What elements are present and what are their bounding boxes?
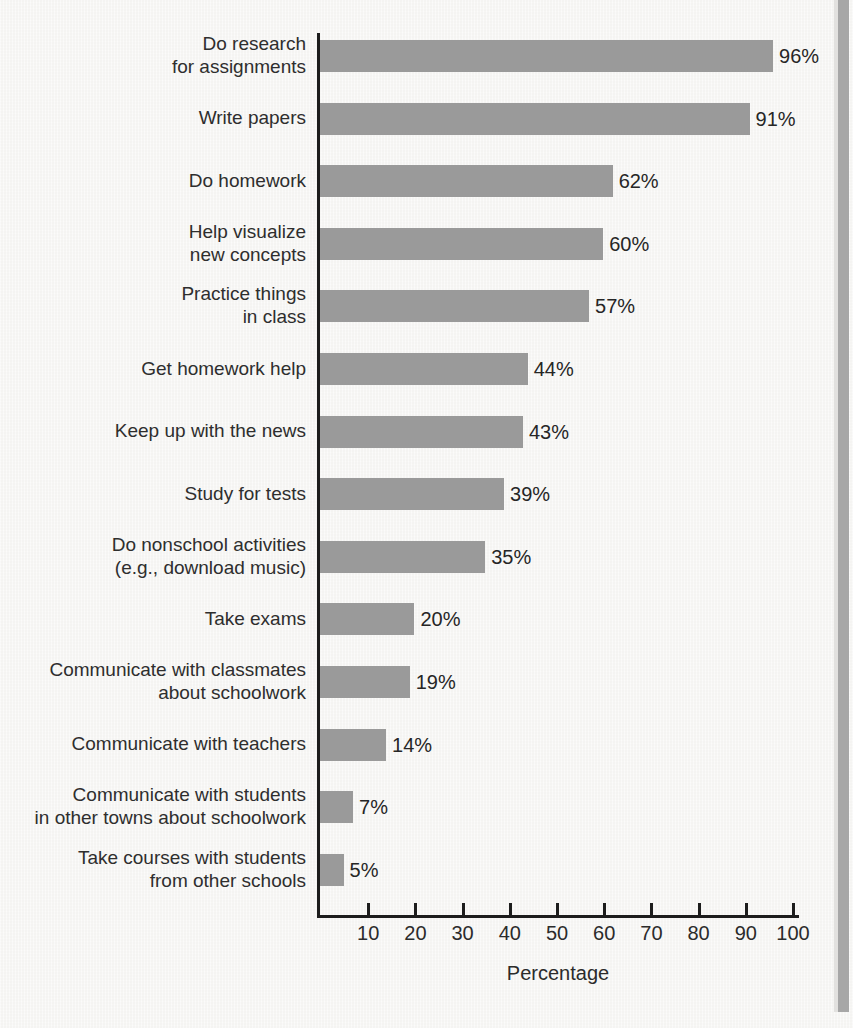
bar	[320, 353, 528, 385]
bar	[320, 666, 410, 698]
bar-value-label: 14%	[392, 733, 432, 757]
bar	[320, 40, 773, 72]
bar-row: Get homework help44%	[0, 353, 853, 385]
bar-row: Do homework62%	[0, 165, 853, 197]
category-label: Practice things in class	[0, 282, 306, 328]
category-label: Keep up with the news	[0, 419, 306, 442]
bar-row: Write papers91%	[0, 103, 853, 135]
x-axis-tick	[414, 903, 417, 915]
x-axis-tick-label: 60	[581, 922, 627, 945]
bar-value-label: 62%	[619, 169, 659, 193]
bar-value-label: 91%	[756, 107, 796, 131]
bar-row: Take courses with students from other sc…	[0, 854, 853, 886]
category-label: Do homework	[0, 169, 306, 192]
category-label: Get homework help	[0, 357, 306, 380]
horizontal-bar-chart: Do research for assignments96%Write pape…	[0, 0, 853, 1028]
bar	[320, 103, 750, 135]
x-axis-tick-label: 70	[628, 922, 674, 945]
x-axis-tick	[792, 903, 795, 915]
category-label: Communicate with classmates about school…	[0, 658, 306, 704]
bar-value-label: 96%	[779, 44, 819, 68]
category-label: Take courses with students from other sc…	[0, 846, 306, 892]
x-axis-tick-label: 50	[534, 922, 580, 945]
x-axis-tick-label: 80	[676, 922, 722, 945]
category-label: Communicate with teachers	[0, 732, 306, 755]
bar-row: Help visualize new concepts60%	[0, 228, 853, 260]
category-label: Write papers	[0, 106, 306, 129]
bar	[320, 165, 613, 197]
bar-value-label: 19%	[416, 670, 456, 694]
bar-row: Practice things in class57%	[0, 290, 853, 322]
x-axis-tick-label: 90	[723, 922, 769, 945]
x-axis-tick	[603, 903, 606, 915]
x-axis-tick-label: 10	[345, 922, 391, 945]
bar	[320, 290, 589, 322]
x-axis-tick-label: 100	[770, 922, 816, 945]
bar	[320, 478, 504, 510]
bar-value-label: 60%	[609, 232, 649, 256]
x-axis-tick	[745, 903, 748, 915]
bar	[320, 729, 386, 761]
category-label: Take exams	[0, 607, 306, 630]
x-axis-tick	[367, 903, 370, 915]
x-axis-tick-label: 20	[392, 922, 438, 945]
bar	[320, 854, 344, 886]
category-label: Study for tests	[0, 482, 306, 505]
bar-value-label: 20%	[420, 607, 460, 631]
x-axis-line	[317, 915, 799, 918]
bar-value-label: 5%	[350, 858, 379, 882]
bar-value-label: 44%	[534, 357, 574, 381]
bar	[320, 416, 523, 448]
bar-row: Study for tests39%	[0, 478, 853, 510]
bar	[320, 541, 485, 573]
x-axis-tick	[556, 903, 559, 915]
bar	[320, 791, 353, 823]
x-axis-tick	[462, 903, 465, 915]
bar-row: Communicate with classmates about school…	[0, 666, 853, 698]
category-label: Do nonschool activities (e.g., download …	[0, 533, 306, 579]
x-axis-tick-label: 40	[487, 922, 533, 945]
bar	[320, 228, 603, 260]
category-label: Do research for assignments	[0, 32, 306, 78]
bar-value-label: 35%	[491, 545, 531, 569]
bar-row: Take exams20%	[0, 603, 853, 635]
bar-row: Keep up with the news43%	[0, 416, 853, 448]
bar-value-label: 43%	[529, 420, 569, 444]
category-label: Communicate with students in other towns…	[0, 783, 306, 829]
bar-value-label: 7%	[359, 795, 388, 819]
category-label: Help visualize new concepts	[0, 220, 306, 266]
x-axis-tick-label: 30	[440, 922, 486, 945]
x-axis-title: Percentage	[317, 962, 799, 985]
bar-value-label: 57%	[595, 294, 635, 318]
bar-value-label: 39%	[510, 482, 550, 506]
bar-row: Communicate with teachers14%	[0, 729, 853, 761]
x-axis-tick	[509, 903, 512, 915]
bar	[320, 603, 414, 635]
bar-row: Do research for assignments96%	[0, 40, 853, 72]
bar-row: Communicate with students in other towns…	[0, 791, 853, 823]
x-axis-tick	[650, 903, 653, 915]
x-axis-tick	[698, 903, 701, 915]
bar-row: Do nonschool activities (e.g., download …	[0, 541, 853, 573]
